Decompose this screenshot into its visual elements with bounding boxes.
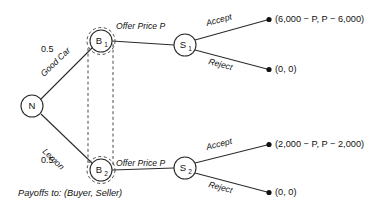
branch-label-accept-lemon: Accept [204,136,233,152]
node-buyer-good[interactable]: B 1 [90,30,112,52]
branch-label-good-car-probability: 0.5 [41,44,54,54]
terminal-dot-good-accept [266,17,271,22]
payoff-good-accept: (6,000 − P, P − 6,000) [275,14,364,24]
node-seller-good-subscript: 1 [188,45,192,52]
payoff-lemon-accept: (2,000 − P, P − 2,000) [275,139,364,149]
branch-label-reject-lemon: Reject [207,179,234,195]
node-seller-lemon-label: S [180,162,186,173]
node-seller-lemon[interactable]: S 2 [174,157,196,179]
node-seller-good[interactable]: S 1 [174,34,196,56]
payoff-lemon-reject: (0, 0) [275,187,296,197]
branch-label-offer-price-good: Offer Price P [116,21,165,31]
node-buyer-good-subscript: 1 [104,41,108,48]
node-nature-label: N [29,100,36,111]
terminal-dot-good-reject [266,67,271,72]
branch-label-reject-good: Reject [207,56,234,72]
node-seller-lemon-subscript: 2 [188,168,192,175]
edge-offer-price-good [112,41,174,45]
edge-offer-price-lemon [112,168,174,170]
payoffs-caption: Payoffs to: (Buyer, Seller) [18,188,122,198]
branch-label-offer-price-lemon: Offer Price P [116,158,165,168]
node-buyer-lemon-label: B [96,164,102,175]
branch-label-accept-good: Accept [204,11,234,28]
game-tree-canvas: N B 1 B 2 S 1 S 2 0.5 Good Car [0,0,389,216]
node-buyer-good-label: B [96,35,102,46]
payoff-good-reject: (0, 0) [275,64,296,74]
node-nature[interactable]: N [21,95,43,117]
terminal-dot-lemon-reject [266,190,271,195]
game-tree-figure: N B 1 B 2 S 1 S 2 0.5 Good Car [0,0,389,216]
node-buyer-lemon-subscript: 2 [104,170,108,177]
node-buyer-lemon[interactable]: B 2 [90,159,112,181]
node-seller-good-label: S [180,39,186,50]
branch-label-lemon-probability: 0.5 [41,155,54,165]
terminal-dot-lemon-accept [266,142,271,147]
